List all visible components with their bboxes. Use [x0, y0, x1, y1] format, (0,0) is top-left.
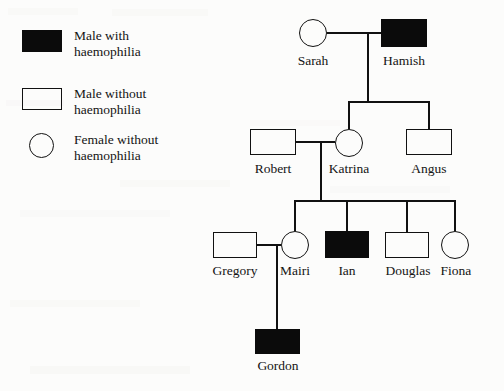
- pedigree-node-fiona: [441, 231, 469, 259]
- pedigree-node-gordon: [255, 329, 300, 354]
- scan-artifact: [112, 9, 208, 16]
- open-square-icon: [22, 88, 62, 110]
- pedigree-node-katrina: [335, 129, 363, 157]
- pedigree-node-douglas: [385, 232, 429, 258]
- pedigree-label-gordon: Gordon: [247, 359, 309, 373]
- mating-line-robert-katrina: [296, 141, 335, 143]
- sibling-drop-ian: [346, 200, 348, 231]
- legend-label-line1: Male without: [74, 86, 146, 102]
- sibship-bar-gen2: [349, 101, 429, 103]
- sibship-bar-gen3: [295, 200, 456, 202]
- descent-line-gen2: [320, 141, 322, 201]
- legend-label-male-unaffected: Male without haemophilia: [74, 86, 146, 117]
- sibling-drop-angus: [428, 101, 430, 130]
- pedigree-label-sarah: Sarah: [283, 54, 343, 68]
- scan-artifact: [330, 186, 450, 193]
- legend-label-line1: Female without: [74, 132, 158, 148]
- pedigree-node-hamish: [381, 19, 427, 47]
- pedigree-label-hamish: Hamish: [374, 54, 434, 68]
- pedigree-node-mairi: [281, 231, 309, 259]
- pedigree-node-angus: [406, 129, 452, 155]
- sibling-drop-douglas: [406, 200, 408, 232]
- descent-line-gen1: [367, 32, 369, 102]
- pedigree-label-angus: Angus: [399, 162, 459, 176]
- scan-artifact: [8, 8, 78, 15]
- scan-artifact: [120, 180, 230, 187]
- pedigree-label-fiona: Fiona: [427, 264, 485, 278]
- pedigree-label-ian: Ian: [317, 264, 377, 278]
- legend-label-line2: haemophilia: [74, 102, 146, 118]
- scan-artifact: [30, 366, 190, 374]
- pedigree-node-robert: [250, 129, 296, 155]
- sibling-drop-fiona: [454, 200, 456, 231]
- pedigree-label-katrina: Katrina: [319, 162, 379, 176]
- sibling-drop-mairi: [294, 200, 296, 231]
- pedigree-label-mairi: Mairi: [266, 264, 324, 278]
- pedigree-label-robert: Robert: [243, 162, 303, 176]
- scan-artifact: [10, 300, 140, 307]
- pedigree-label-gregory: Gregory: [205, 264, 265, 278]
- legend-label-male-affected: Male with haemophilia: [74, 28, 141, 59]
- legend-label-line2: haemophilia: [74, 44, 141, 60]
- filled-square-icon: [22, 30, 62, 52]
- legend-label-line2: haemophilia: [74, 148, 158, 164]
- pedigree-node-gregory: [213, 232, 257, 258]
- scan-artifact: [250, 120, 340, 126]
- open-circle-icon: [29, 133, 54, 158]
- mating-line-sarah-hamish: [327, 32, 381, 34]
- sibling-drop-katrina: [348, 101, 350, 129]
- legend-label-line1: Male with: [74, 28, 141, 44]
- legend-label-female-unaffected: Female without haemophilia: [74, 132, 158, 163]
- pedigree-node-sarah: [299, 19, 327, 47]
- pedigree-diagram-page: Male with haemophilia Male without haemo…: [0, 0, 504, 391]
- scan-artifact: [20, 210, 170, 217]
- pedigree-node-ian: [325, 231, 369, 258]
- descent-line-gen3: [276, 244, 278, 330]
